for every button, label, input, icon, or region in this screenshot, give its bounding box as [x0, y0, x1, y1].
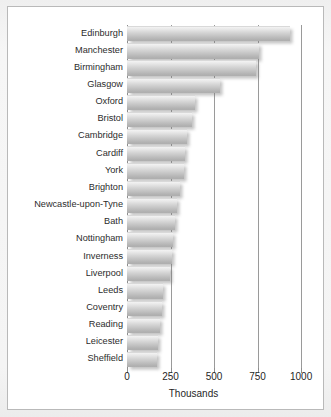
bar-sheffield[interactable] — [127, 352, 157, 367]
bar-row — [127, 265, 302, 282]
bar-row — [127, 299, 302, 316]
y-axis-label-glasgow: Glasgow — [87, 79, 123, 90]
bar-coventry[interactable] — [127, 301, 162, 316]
y-axis-label-oxford: Oxford — [95, 96, 123, 107]
x-tick-label-250: 250 — [162, 371, 179, 382]
figure-container: EdinburghManchesterBirminghamGlasgowOxfo… — [0, 0, 331, 417]
bar-brighton[interactable] — [127, 181, 180, 196]
chart-panel: EdinburghManchesterBirminghamGlasgowOxfo… — [7, 6, 324, 410]
bar-liverpool[interactable] — [127, 266, 170, 281]
y-axis-label-reading: Reading — [89, 319, 123, 330]
bar-leeds[interactable] — [127, 283, 163, 298]
y-axis-label-inverness: Inverness — [83, 251, 123, 262]
bar-row — [127, 197, 302, 214]
y-axis-label-bath: Bath — [104, 216, 123, 227]
y-axis-label-leeds: Leeds — [98, 285, 123, 296]
bar-oxford[interactable] — [127, 95, 195, 110]
x-tick-label-500: 500 — [206, 371, 223, 382]
bar-glasgow[interactable] — [127, 78, 220, 93]
bar-row — [127, 282, 302, 299]
x-axis-title: Thousands — [8, 388, 323, 399]
y-axis-label-brighton: Brighton — [89, 182, 123, 193]
bar-manchester[interactable] — [127, 43, 259, 58]
y-axis-label-manchester: Manchester — [75, 45, 123, 56]
bar-reading[interactable] — [127, 318, 160, 333]
bar-nottingham[interactable] — [127, 232, 173, 247]
bar-row — [127, 76, 302, 93]
y-axis-label-sheffield: Sheffield — [87, 353, 123, 364]
y-axis-label-liverpool: Liverpool — [86, 268, 123, 279]
bar-series — [127, 25, 302, 368]
x-tick-label-1000: 1000 — [290, 371, 312, 382]
x-axis-title-text: Thousands — [169, 388, 218, 399]
y-axis-label-nottingham: Nottingham — [76, 233, 123, 244]
y-axis-label-birmingham: Birmingham — [74, 62, 123, 73]
plot-area — [127, 25, 302, 368]
bar-row — [127, 25, 302, 42]
y-axis-category-labels: EdinburghManchesterBirminghamGlasgowOxfo… — [8, 25, 123, 368]
bar-birmingham[interactable] — [127, 60, 256, 75]
bar-york[interactable] — [127, 163, 184, 178]
bar-row — [127, 214, 302, 231]
bar-row — [127, 128, 302, 145]
bar-bath[interactable] — [127, 215, 175, 230]
bar-row — [127, 231, 302, 248]
y-axis-label-coventry: Coventry — [86, 302, 123, 313]
bar-row — [127, 317, 302, 334]
x-axis-tick-labels: 02505007501000 — [8, 371, 323, 385]
bar-cambridge[interactable] — [127, 129, 187, 144]
x-tick-label-0: 0 — [124, 371, 130, 382]
bar-row — [127, 351, 302, 368]
y-axis-label-cardiff: Cardiff — [96, 148, 123, 159]
bar-row — [127, 179, 302, 196]
bar-row — [127, 334, 302, 351]
x-tick-label-750: 750 — [249, 371, 266, 382]
y-axis-label-leicester: Leicester — [86, 336, 123, 347]
bar-row — [127, 42, 302, 59]
y-axis-label-york: York — [105, 165, 123, 176]
y-axis-label-newcastle-upon-tyne: Newcastle-upon-Tyne — [34, 199, 123, 210]
bar-inverness[interactable] — [127, 249, 172, 264]
bar-newcastle-upon-tyne[interactable] — [127, 198, 177, 213]
y-axis-label-bristol: Bristol — [97, 113, 123, 124]
bar-leicester[interactable] — [127, 335, 158, 350]
y-axis-label-cambridge: Cambridge — [78, 130, 123, 141]
bar-cardiff[interactable] — [127, 146, 185, 161]
bar-row — [127, 59, 302, 76]
bar-row — [127, 111, 302, 128]
y-axis-label-edinburgh: Edinburgh — [81, 28, 123, 39]
bar-row — [127, 248, 302, 265]
bar-bristol[interactable] — [127, 112, 192, 127]
bar-row — [127, 94, 302, 111]
bar-row — [127, 145, 302, 162]
bar-row — [127, 162, 302, 179]
bar-edinburgh[interactable] — [127, 26, 290, 41]
